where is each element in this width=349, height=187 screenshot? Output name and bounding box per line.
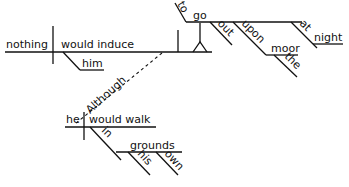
pedestal-foot — [193, 42, 207, 52]
word-to: to — [174, 0, 191, 15]
word-he: he — [66, 113, 80, 126]
word-although: Although — [83, 73, 129, 116]
word-moor: moor — [271, 42, 300, 55]
word-would-walk: would walk — [89, 113, 151, 126]
word-out: out — [215, 17, 237, 39]
word-night: night — [314, 31, 343, 44]
him-slant — [63, 52, 80, 70]
word-at: at — [297, 17, 314, 34]
word-would-induce: would induce — [61, 38, 134, 51]
word-him: him — [82, 57, 103, 70]
word-nothing: nothing — [6, 38, 48, 51]
sentence-diagram: nothing would induce him to go out upon … — [0, 0, 349, 187]
word-go: go — [193, 9, 207, 22]
